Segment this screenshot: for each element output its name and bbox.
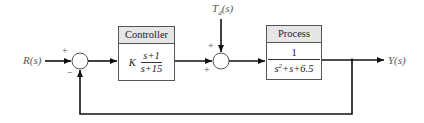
input-label: R(s)	[23, 54, 41, 66]
controller-gain: K	[129, 57, 136, 68]
sum2-left-plus-sign: +	[204, 64, 210, 75]
process-transfer-function: 1 s2+s+6.5	[267, 43, 321, 79]
process-numerator: 1	[268, 47, 320, 60]
process-title: Process	[267, 26, 321, 43]
sum1-plus-sign: +	[62, 45, 68, 56]
process-den-suffix: +s+6.5	[282, 63, 313, 74]
summing-junction-2	[213, 53, 229, 69]
summing-junction-1	[72, 53, 88, 69]
controller-fraction: s+1 s+15	[139, 50, 165, 75]
controller-denominator: s+15	[139, 63, 165, 75]
process-block: Process 1 s2+s+6.5	[266, 25, 322, 80]
diagram-wires	[0, 0, 424, 123]
output-label-text: Y(s)	[388, 54, 406, 66]
output-label: Y(s)	[388, 54, 406, 66]
controller-block: Controller K s+1 s+15	[118, 26, 175, 81]
controller-title: Controller	[119, 27, 174, 44]
sum2-top-plus-sign: +	[208, 40, 214, 51]
controller-numerator: s+1	[141, 50, 161, 63]
process-denominator: s2+s+6.5	[273, 60, 316, 75]
controller-transfer-function: K s+1 s+15	[119, 44, 174, 80]
disturbance-label: Td(s)	[212, 2, 233, 17]
sum1-minus-sign: −	[67, 67, 73, 78]
disturbance-arg: (s)	[222, 2, 234, 14]
process-fraction: 1 s2+s+6.5	[268, 47, 320, 75]
